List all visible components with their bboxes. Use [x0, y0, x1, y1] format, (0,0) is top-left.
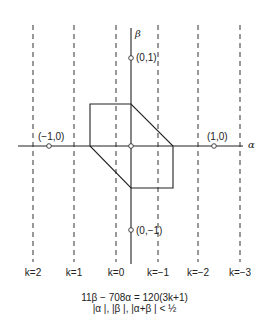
beta-axis-label: β	[135, 29, 141, 39]
k-label: k=2	[25, 268, 41, 278]
k-label: k=−1	[147, 268, 169, 278]
lattice-point-marker	[212, 144, 217, 149]
lattice-point-marker	[129, 56, 134, 61]
lattice-point-marker	[47, 144, 52, 149]
point-label-0-1: (0,1)	[136, 53, 157, 63]
point-label-1-0: (1,0)	[207, 132, 228, 142]
point-label-0-neg1: (0,−1)	[136, 226, 162, 236]
alpha-axis-label: α	[248, 140, 255, 150]
k-label: k=1	[66, 268, 82, 278]
lattice-point-marker	[129, 228, 134, 233]
k-label: k=−3	[229, 268, 251, 278]
equation-line-2: |α |, |β |, |α+β | < ½	[0, 304, 269, 314]
k-label: k=−2	[187, 268, 209, 278]
lattice-point-marker	[129, 144, 134, 149]
equation-line-1: 11β − 708α = 120(3k+1)	[0, 293, 269, 303]
k-label: k=0	[108, 268, 124, 278]
point-label-neg1-0: (−1,0)	[38, 132, 64, 142]
